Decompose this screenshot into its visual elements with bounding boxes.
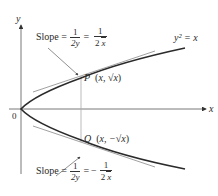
parabola-curve [21, 48, 185, 169]
point-q-label: Q (x, −√x) [84, 134, 129, 144]
slope-annotation-lower: Slope = 1 2y = − 1 2x [36, 160, 113, 182]
curve-equation-label: y² = x [174, 33, 198, 43]
point-q-name: Q [84, 133, 91, 144]
slope-annotation-upper: Slope = 1 2y = 1 2x [36, 26, 108, 48]
x-axis-label: x [209, 104, 213, 114]
slope-fraction-1: 1 2y [70, 161, 81, 182]
slope-fraction-2: 1 2x [94, 26, 107, 48]
point-p-label: P (x, √x) [84, 73, 121, 83]
pointer-arrow-upper [48, 48, 78, 75]
slope-fraction-1: 1 2y [70, 27, 81, 48]
origin-label: 0 [12, 112, 17, 121]
y-axis-label: y [16, 14, 20, 24]
slope-fraction-2: 1 2x [100, 160, 113, 182]
point-p-name: P [84, 72, 90, 83]
